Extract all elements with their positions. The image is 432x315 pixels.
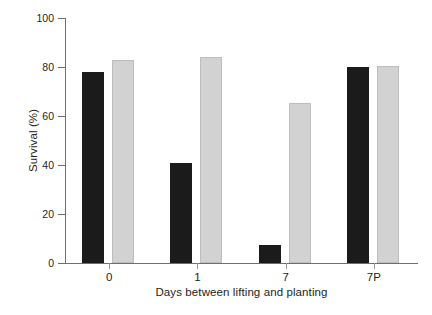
y-axis-tick-label: 40: [28, 160, 54, 171]
bar-1-dark: [170, 163, 192, 263]
x-axis-tick-mark: [197, 263, 198, 269]
x-axis-tick-mark: [109, 263, 110, 269]
x-axis-line: [65, 263, 418, 264]
bar-7P-light: [377, 66, 399, 263]
bar-7-light: [289, 103, 311, 263]
y-axis-tick-label: 0: [28, 258, 54, 269]
y-axis-tick-mark: [58, 263, 65, 264]
y-axis-tick-mark: [58, 18, 65, 19]
x-axis-tick-label: 0: [79, 272, 139, 284]
y-axis-tick-mark: [58, 214, 65, 215]
y-axis-tick-label: 60: [28, 111, 54, 122]
x-axis-tick-mark: [286, 263, 287, 269]
bar-7P-dark: [347, 67, 369, 263]
bar-7-dark: [259, 245, 281, 263]
bar-0-dark: [82, 72, 104, 263]
x-axis-tick-label: 7P: [344, 272, 404, 284]
y-axis-tick-label: 100: [28, 13, 54, 24]
bar-0-light: [112, 60, 134, 263]
x-axis-tick-label: 7: [256, 272, 316, 284]
x-axis-tick-mark: [374, 263, 375, 269]
y-axis-tick-label: 20: [28, 209, 54, 220]
bar-chart-figure: Survival (%) 020406080100 0177P Days bet…: [0, 0, 432, 315]
y-axis-tick-mark: [58, 116, 65, 117]
y-axis-tick-label: 80: [28, 62, 54, 73]
y-axis-title: Survival (%): [22, 18, 44, 263]
x-axis-tick-label: 1: [167, 272, 227, 284]
bar-1-light: [200, 57, 222, 263]
y-axis-tick-mark: [58, 67, 65, 68]
x-axis-title: Days between lifting and planting: [65, 286, 418, 298]
y-axis-tick-mark: [58, 165, 65, 166]
y-axis-line: [65, 18, 66, 263]
